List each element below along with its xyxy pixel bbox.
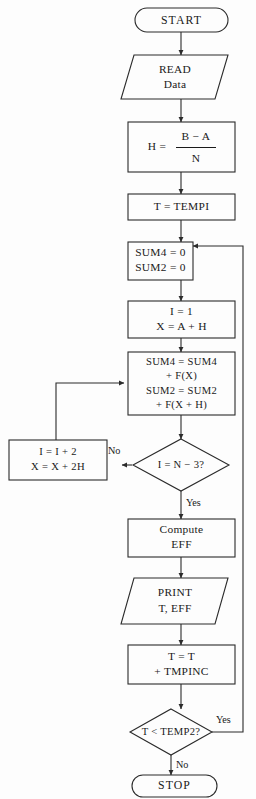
increment-label-line1: I = I + 2 [39, 446, 77, 457]
node-increment[interactable]: I = I + 2 X = X + 2H [9, 440, 107, 480]
read-data-label-line2: Data [164, 78, 187, 90]
increment-label-line2: X = X + 2H [31, 461, 85, 472]
compute-h-numerator: B − A [182, 130, 211, 142]
temp-test-label: T < TEMP2? [142, 726, 201, 737]
loop-test-yes-label: Yes [186, 497, 201, 508]
accumulate-label-line3: SUM2 = SUM2 [146, 385, 217, 396]
temp-test-no-label: No [176, 759, 188, 770]
compute-eff-label-line1: Compute [160, 523, 204, 535]
node-init-sums[interactable]: SUM4 = 0 SUM2 = 0 [128, 242, 193, 280]
loop-test-no-label: No [108, 445, 120, 456]
init-loop-label-line1: I = 1 [170, 305, 193, 317]
node-stop[interactable]: STOP [132, 775, 217, 797]
accumulate-label-line1: SUM4 = SUM4 [146, 356, 217, 367]
node-loop-test[interactable]: I = N − 3? No Yes [108, 439, 229, 508]
node-init-loop[interactable]: I = 1 X = A + H [128, 301, 235, 338]
accumulate-label-line4: + F(X + H) [156, 399, 207, 411]
flowchart-canvas: START READ Data H = B − A N T = TEMPI SU… [0, 0, 256, 799]
set-t-label: T = TEMPI [154, 200, 210, 212]
temp-test-yes-label: Yes [216, 714, 231, 725]
init-loop-label-line2: X = A + H [156, 320, 206, 332]
node-compute-eff[interactable]: Compute EFF [128, 519, 235, 557]
read-data-label-line1: READ [159, 63, 191, 75]
node-read-data[interactable]: READ Data [121, 55, 228, 99]
stop-label: STOP [158, 778, 191, 792]
print-results-label-line2: T, EFF [158, 602, 191, 614]
connector-increment-to-accumulate-feedback [56, 383, 124, 440]
node-compute-h[interactable]: H = B − A N [128, 122, 235, 172]
compute-eff-label-line2: EFF [171, 538, 192, 550]
loop-test-label: I = N − 3? [158, 459, 205, 470]
print-results-label-line1: PRINT [158, 586, 192, 598]
node-increment-t[interactable]: T = T + TMPINC [128, 645, 235, 684]
increment-t-label-line1: T = T [168, 650, 195, 662]
compute-h-denominator: N [192, 152, 201, 164]
node-temp-test[interactable]: T < TEMP2? Yes No [130, 709, 231, 770]
increment-t-label-line2: + TMPINC [154, 665, 209, 677]
compute-h-lhs: H = [148, 140, 166, 152]
node-print-results[interactable]: PRINT T, EFF [121, 578, 228, 624]
init-sums-label-line2: SUM2 = 0 [135, 261, 186, 273]
node-set-t[interactable]: T = TEMPI [128, 194, 235, 220]
node-start[interactable]: START [135, 8, 228, 32]
init-sums-label-line1: SUM4 = 0 [135, 246, 186, 258]
start-label: START [161, 13, 202, 27]
node-accumulate[interactable]: SUM4 = SUM4 + F(X) SUM2 = SUM2 + F(X + H… [128, 352, 235, 415]
accumulate-label-line2: + F(X) [166, 370, 197, 382]
